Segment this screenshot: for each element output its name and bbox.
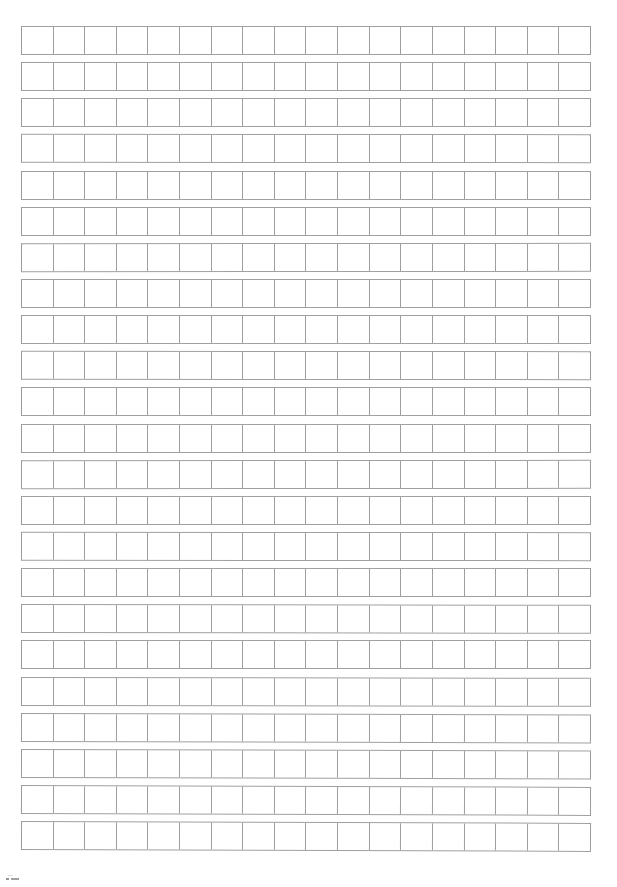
grid-cell[interactable]: [54, 569, 86, 596]
grid-cell[interactable]: [370, 497, 402, 524]
grid-cell[interactable]: [148, 641, 180, 668]
grid-cell[interactable]: [180, 27, 212, 54]
grid-cell[interactable]: [401, 606, 433, 633]
grid-cell[interactable]: [370, 280, 402, 307]
grid-cell[interactable]: [370, 678, 402, 705]
grid-cell[interactable]: [528, 388, 560, 415]
grid-cell[interactable]: [496, 208, 528, 235]
grid-cell[interactable]: [465, 27, 497, 54]
grid-cell[interactable]: [401, 533, 433, 560]
grid-cell[interactable]: [338, 244, 370, 271]
grid-cell[interactable]: [370, 352, 402, 379]
grid-cell[interactable]: [148, 208, 180, 235]
grid-cell[interactable]: [148, 99, 180, 126]
grid-cell[interactable]: [401, 425, 433, 452]
grid-cell[interactable]: [212, 352, 244, 379]
grid-cell[interactable]: [180, 786, 212, 813]
grid-cell[interactable]: [117, 641, 149, 668]
grid-cell[interactable]: [338, 63, 370, 90]
grid-cell[interactable]: [54, 388, 86, 415]
grid-cell[interactable]: [401, 787, 433, 814]
grid-cell[interactable]: [306, 641, 338, 668]
grid-cell[interactable]: [401, 352, 433, 379]
grid-cell[interactable]: [496, 280, 528, 307]
grid-cell[interactable]: [243, 787, 275, 814]
grid-cell[interactable]: [275, 750, 307, 777]
grid-cell[interactable]: [528, 280, 560, 307]
grid-cell[interactable]: [117, 63, 149, 90]
grid-cell[interactable]: [243, 316, 275, 343]
grid-cell[interactable]: [22, 280, 54, 307]
grid-cell[interactable]: [275, 280, 307, 307]
grid-cell[interactable]: [148, 786, 180, 813]
grid-cell[interactable]: [275, 316, 307, 343]
grid-cell[interactable]: [338, 208, 370, 235]
grid-cell[interactable]: [180, 280, 212, 307]
grid-cell[interactable]: [212, 714, 244, 741]
grid-cell[interactable]: [433, 641, 465, 668]
grid-cell[interactable]: [148, 280, 180, 307]
grid-cell[interactable]: [212, 750, 244, 777]
grid-cell[interactable]: [85, 244, 117, 271]
grid-cell[interactable]: [464, 787, 496, 814]
grid-cell[interactable]: [401, 316, 433, 343]
grid-cell[interactable]: [117, 605, 149, 632]
grid-cell[interactable]: [85, 208, 117, 235]
grid-cell[interactable]: [148, 714, 180, 741]
grid-cell[interactable]: [433, 208, 465, 235]
grid-cell[interactable]: [496, 678, 528, 705]
grid-cell[interactable]: [243, 280, 275, 307]
grid-cell[interactable]: [559, 678, 590, 705]
grid-cell[interactable]: [117, 461, 149, 488]
grid-cell[interactable]: [306, 244, 338, 271]
grid-cell[interactable]: [275, 425, 307, 452]
grid-cell[interactable]: [148, 135, 180, 162]
grid-cell[interactable]: [401, 461, 433, 488]
grid-cell[interactable]: [180, 388, 212, 415]
grid-cell[interactable]: [528, 788, 560, 815]
grid-cell[interactable]: [212, 388, 244, 415]
grid-cell[interactable]: [559, 244, 590, 271]
grid-cell[interactable]: [433, 425, 465, 452]
grid-cell[interactable]: [528, 751, 560, 778]
grid-cell[interactable]: [22, 63, 54, 90]
grid-cell[interactable]: [85, 786, 117, 813]
grid-cell[interactable]: [212, 208, 244, 235]
grid-cell[interactable]: [465, 208, 497, 235]
grid-cell[interactable]: [54, 641, 86, 668]
grid-cell[interactable]: [54, 750, 86, 777]
grid-cell[interactable]: [148, 822, 180, 849]
grid-cell[interactable]: [212, 316, 244, 343]
grid-cell[interactable]: [370, 172, 402, 199]
grid-cell[interactable]: [180, 750, 212, 777]
grid-cell[interactable]: [22, 533, 54, 560]
grid-cell[interactable]: [54, 280, 86, 307]
grid-cell[interactable]: [148, 27, 180, 54]
grid-cell[interactable]: [338, 425, 370, 452]
grid-cell[interactable]: [338, 533, 370, 560]
grid-cell[interactable]: [148, 461, 180, 488]
grid-cell[interactable]: [85, 99, 117, 126]
grid-cell[interactable]: [559, 136, 590, 163]
grid-cell[interactable]: [117, 497, 149, 524]
grid-cell[interactable]: [433, 823, 465, 850]
grid-cell[interactable]: [212, 99, 244, 126]
grid-cell[interactable]: [559, 606, 590, 633]
grid-cell[interactable]: [117, 569, 149, 596]
grid-cell[interactable]: [433, 99, 465, 126]
grid-cell[interactable]: [370, 244, 402, 271]
grid-cell[interactable]: [433, 63, 465, 90]
grid-cell[interactable]: [465, 461, 497, 488]
grid-cell[interactable]: [85, 497, 117, 524]
grid-cell[interactable]: [275, 533, 307, 560]
grid-cell[interactable]: [433, 751, 465, 778]
grid-cell[interactable]: [243, 425, 275, 452]
grid-cell[interactable]: [148, 316, 180, 343]
grid-cell[interactable]: [85, 569, 117, 596]
grid-cell[interactable]: [528, 715, 560, 742]
grid-cell[interactable]: [433, 388, 465, 415]
grid-cell[interactable]: [401, 63, 433, 90]
grid-cell[interactable]: [22, 786, 54, 813]
grid-cell[interactable]: [212, 606, 244, 633]
grid-cell[interactable]: [243, 99, 275, 126]
